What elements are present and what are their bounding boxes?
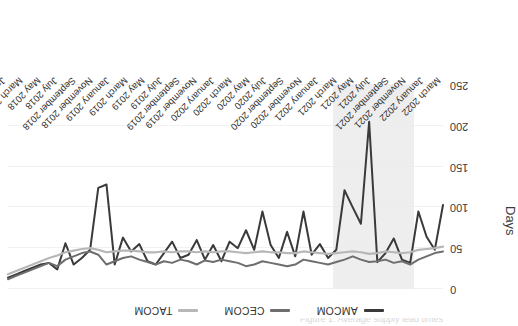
y-axis-tick-labels: 050100150200250 — [450, 85, 497, 289]
x-axis-tick-labels: March 2022January 2022November 2021Septe… — [8, 3, 443, 83]
y-tick-200: 200 — [450, 121, 468, 133]
legend-item-amcom[interactable]: AMCOM — [317, 305, 384, 317]
legend-label-tacom: TACOM — [134, 305, 172, 317]
series-line-amcom — [8, 122, 443, 278]
legend-swatch-tacom — [178, 310, 198, 313]
legend-item-tacom[interactable]: TACOM — [134, 305, 198, 317]
y-tick-100: 100 — [450, 202, 468, 214]
legend-swatch-cecom — [271, 310, 291, 313]
y-axis-title: Days — [503, 206, 518, 236]
legend-label-cecom: CECOM — [224, 305, 264, 317]
y-tick-250: 250 — [450, 80, 468, 92]
clipped-caption-text: Figure 1. Average supply lead times — [300, 318, 443, 324]
rotated-figure-wrapper: AMCOM CECOM TACOM 050100150200250 Days M… — [0, 0, 518, 326]
y-tick-150: 150 — [450, 162, 468, 174]
y-tick-0: 0 — [450, 284, 456, 296]
clipped-caption-strip: Figure 1. Average supply lead times — [0, 318, 518, 326]
chart-figure: AMCOM CECOM TACOM 050100150200250 Days M… — [0, 0, 518, 326]
y-tick-50: 50 — [450, 243, 462, 255]
legend-swatch-amcom — [364, 310, 384, 313]
legend-item-cecom[interactable]: CECOM — [224, 305, 290, 317]
legend-label-amcom: AMCOM — [317, 305, 358, 317]
